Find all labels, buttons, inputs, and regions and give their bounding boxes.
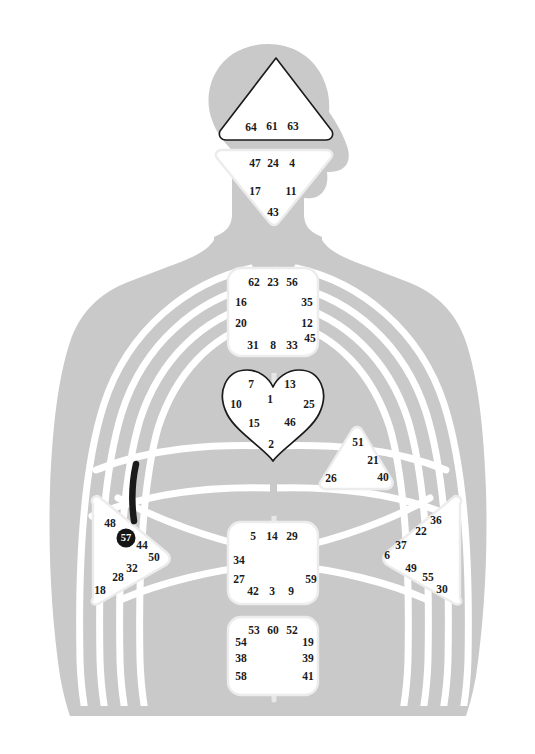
gate-47[interactable]: 47 xyxy=(249,158,261,170)
gate-46[interactable]: 46 xyxy=(284,417,296,429)
gate-57-active[interactable]: 57 xyxy=(118,530,135,547)
gate-10[interactable]: 10 xyxy=(230,399,242,411)
gate-43[interactable]: 43 xyxy=(267,207,279,219)
bodygraph-chart: 6461634724417114362235616352012453183371… xyxy=(0,0,535,754)
gate-52[interactable]: 52 xyxy=(286,625,298,637)
gate-3[interactable]: 3 xyxy=(269,586,275,598)
gate-55[interactable]: 55 xyxy=(422,572,434,584)
gate-62[interactable]: 62 xyxy=(248,277,260,289)
gate-53[interactable]: 53 xyxy=(248,625,260,637)
active-channel-stroke xyxy=(132,464,136,521)
gate-7[interactable]: 7 xyxy=(248,379,254,391)
gate-32[interactable]: 32 xyxy=(126,563,138,575)
gate-16[interactable]: 16 xyxy=(235,297,247,309)
gate-64[interactable]: 64 xyxy=(245,122,257,134)
gate-39[interactable]: 39 xyxy=(302,653,314,665)
gate-54[interactable]: 54 xyxy=(235,637,247,649)
gate-8[interactable]: 8 xyxy=(270,340,276,352)
gate-37[interactable]: 37 xyxy=(395,540,407,552)
gate-9[interactable]: 9 xyxy=(288,586,294,598)
gate-34[interactable]: 34 xyxy=(233,555,245,567)
gate-58[interactable]: 58 xyxy=(235,671,247,683)
gate-4[interactable]: 4 xyxy=(289,158,295,170)
gate-13[interactable]: 13 xyxy=(284,379,296,391)
gate-21[interactable]: 21 xyxy=(367,455,379,467)
gate-20[interactable]: 20 xyxy=(235,318,247,330)
gate-24[interactable]: 24 xyxy=(267,158,279,170)
gate-28[interactable]: 28 xyxy=(112,572,124,584)
gate-27[interactable]: 27 xyxy=(233,574,245,586)
gate-22[interactable]: 22 xyxy=(415,526,427,538)
gate-41[interactable]: 41 xyxy=(302,671,314,683)
gate-26[interactable]: 26 xyxy=(325,473,337,485)
gate-63[interactable]: 63 xyxy=(287,121,299,133)
gate-5[interactable]: 5 xyxy=(250,531,256,543)
gate-33[interactable]: 33 xyxy=(286,340,298,352)
gate-25[interactable]: 25 xyxy=(303,399,315,411)
gate-45[interactable]: 45 xyxy=(304,333,316,345)
gate-31[interactable]: 31 xyxy=(247,340,259,352)
gate-17[interactable]: 17 xyxy=(249,186,261,198)
gate-36[interactable]: 36 xyxy=(430,515,442,527)
gate-29[interactable]: 29 xyxy=(286,531,298,543)
gate-30[interactable]: 30 xyxy=(436,584,448,596)
gate-60[interactable]: 60 xyxy=(267,625,279,637)
gate-14[interactable]: 14 xyxy=(266,531,278,543)
gate-40[interactable]: 40 xyxy=(377,472,389,484)
gate-48[interactable]: 48 xyxy=(104,518,116,530)
gate-61[interactable]: 61 xyxy=(266,121,278,133)
gate-49[interactable]: 49 xyxy=(405,563,417,575)
gate-12[interactable]: 12 xyxy=(301,318,313,330)
bodygraph-canvas xyxy=(0,0,535,754)
gate-56[interactable]: 56 xyxy=(286,277,298,289)
gate-51[interactable]: 51 xyxy=(352,437,364,449)
gate-23[interactable]: 23 xyxy=(267,277,279,289)
gate-42[interactable]: 42 xyxy=(247,586,259,598)
gate-2[interactable]: 2 xyxy=(268,439,274,451)
gate-15[interactable]: 15 xyxy=(248,418,260,430)
gate-6[interactable]: 6 xyxy=(384,550,390,562)
gate-44[interactable]: 44 xyxy=(136,540,148,552)
gate-18[interactable]: 18 xyxy=(94,585,106,597)
gate-38[interactable]: 38 xyxy=(235,653,247,665)
gate-35[interactable]: 35 xyxy=(301,297,313,309)
gate-59[interactable]: 59 xyxy=(305,574,317,586)
gate-1[interactable]: 1 xyxy=(267,394,273,406)
gate-11[interactable]: 11 xyxy=(286,186,297,198)
gate-19[interactable]: 19 xyxy=(302,637,314,649)
gate-50[interactable]: 50 xyxy=(148,552,160,564)
